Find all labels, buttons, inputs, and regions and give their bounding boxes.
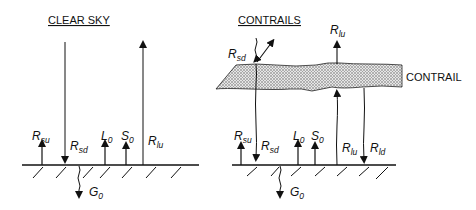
clear-sky-title: CLEAR SKY [48,14,110,26]
ground-hatch [247,167,388,179]
rlu-arrow [337,93,338,165]
rld-arrow [364,88,365,160]
rlu-label: Rlu [342,141,358,157]
rsd-top-label: Rsd [228,47,246,63]
rsu-label: Rsu [234,129,252,145]
contrail-label: CONTRAIL [406,71,462,83]
rlu-top-label: Rlu [330,23,346,39]
radiation-budget-diagram: CLEAR SKY Rsu Rsd L0 S0 Rlu G0 [0,0,476,210]
rsu-label: Rsu [32,129,50,145]
l0-label: L0 [293,129,305,145]
reflected-arrow [257,42,272,62]
g0-arrow [78,166,80,195]
rsd-incoming-arrow [255,38,257,60]
g0-label: G0 [89,185,103,201]
l0-label: L0 [101,129,113,145]
g0-arrow [279,166,281,195]
contrails-title: CONTRAILS [238,14,301,26]
g0-label: G0 [290,185,304,201]
rlu-label: Rlu [148,134,164,150]
rld-label: Rld [370,141,386,157]
rsd-label: Rsd [261,139,279,155]
s0-label: S0 [311,129,324,145]
contrail-layer [216,63,402,91]
clear-sky-panel: CLEAR SKY Rsu Rsd L0 S0 Rlu G0 [22,14,199,201]
rsd-label: Rsd [70,139,88,155]
s0-label: S0 [121,129,134,145]
ground-hatch [33,167,181,178]
contrails-panel: CONTRAILS CONTRAIL Rsd Rlu [216,14,462,201]
